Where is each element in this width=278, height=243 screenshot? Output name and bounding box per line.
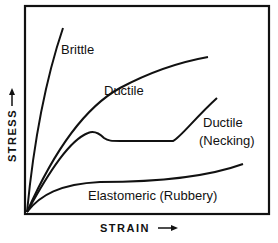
y-axis-label: STRESS bbox=[6, 109, 18, 162]
label-brittle: Brittle bbox=[61, 42, 94, 57]
label-elastomeric: Elastomeric (Rubbery) bbox=[88, 188, 217, 203]
plot-frame bbox=[25, 6, 269, 214]
stress-strain-chart: Brittle Ductile Ductile (Necking) Elasto… bbox=[0, 0, 278, 243]
label-ductile: Ductile bbox=[104, 83, 144, 98]
label-necking-2: (Necking) bbox=[199, 133, 255, 148]
x-axis-arrow-icon bbox=[158, 225, 178, 231]
curve-brittle bbox=[27, 28, 63, 212]
label-necking-1: Ductile bbox=[203, 115, 243, 130]
x-axis-label: STRAIN bbox=[100, 222, 150, 234]
y-axis-arrow-icon bbox=[9, 88, 15, 106]
